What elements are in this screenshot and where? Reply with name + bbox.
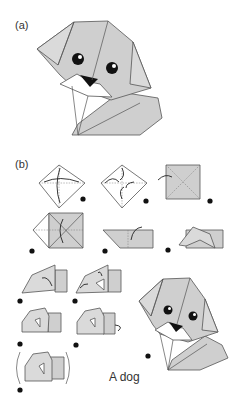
step-11-diagram [17, 352, 70, 393]
step-8-diagram [72, 265, 121, 304]
step-10-diagram [73, 308, 120, 348]
step-2-diagram [101, 165, 149, 208]
step-3-diagram [158, 165, 213, 204]
step-5-diagram [102, 227, 153, 254]
step-9-diagram [17, 308, 61, 347]
step-4-diagram [29, 213, 83, 254]
step-6-diagram [165, 227, 223, 253]
origami-diagram [0, 0, 241, 402]
step-7-diagram [17, 265, 67, 304]
origami-dog-icon [37, 21, 162, 135]
step-1-diagram [39, 165, 86, 208]
step-12-diagram [139, 278, 228, 370]
